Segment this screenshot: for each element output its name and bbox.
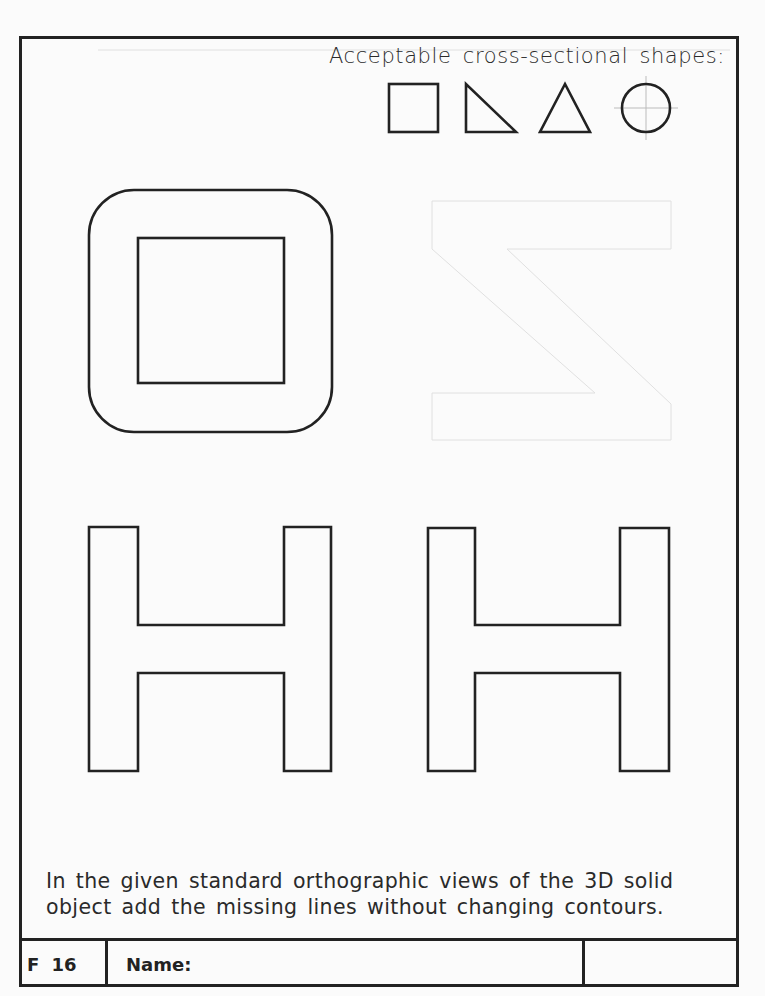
sheet-id: F 16: [19, 941, 108, 987]
front-view: [89, 527, 331, 771]
right-triangle-icon: [466, 84, 516, 132]
h-profile-front: [89, 527, 331, 771]
extra-field: [585, 941, 736, 987]
acceptable-shapes: [389, 76, 678, 140]
bleed-line: [432, 201, 671, 440]
drawing-canvas: [0, 0, 765, 996]
triangle-icon: [540, 84, 590, 132]
instructions-text: In the given standard orthographic views…: [46, 868, 716, 920]
top-view: [89, 190, 332, 432]
acceptable-shapes-heading: Acceptable cross-sectional shapes:: [329, 44, 725, 68]
circle-with-centerlines-icon: [614, 76, 678, 140]
title-block: F 16 Name:: [19, 938, 739, 987]
name-field[interactable]: Name:: [108, 941, 585, 987]
side-view: [428, 528, 669, 771]
outer-rounded-square: [89, 190, 332, 432]
inner-square-hole: [138, 238, 284, 383]
square-icon: [389, 84, 438, 132]
h-profile-side: [428, 528, 669, 771]
name-label: Name:: [126, 954, 191, 975]
